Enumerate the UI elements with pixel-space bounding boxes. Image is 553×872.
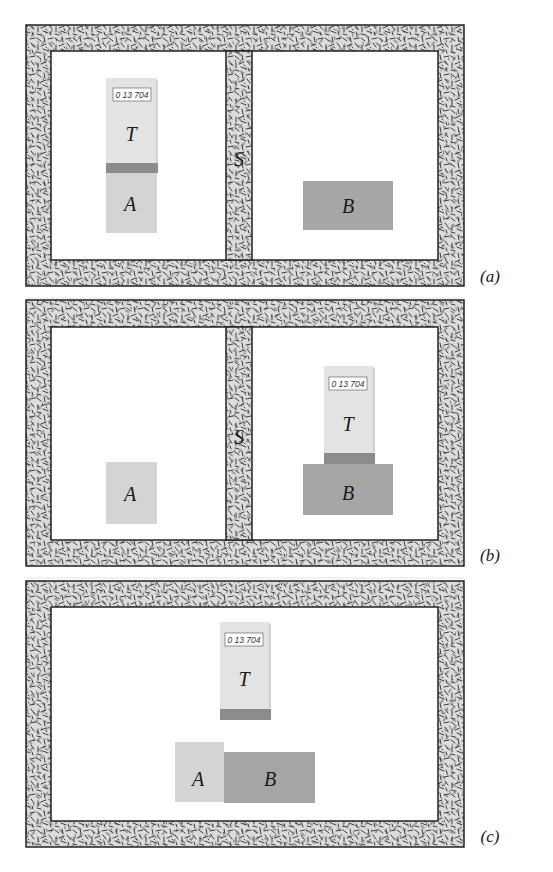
thermometer-sensor-band bbox=[324, 453, 375, 464]
body-b-label: B bbox=[342, 482, 354, 504]
wall-label: S bbox=[234, 426, 244, 448]
thermometer-t: 0 13 704 T bbox=[220, 622, 271, 720]
body-b-label: B bbox=[264, 768, 276, 790]
panel-a: S 0 13 704 T A B (a) bbox=[26, 25, 500, 286]
thermometer-reading: 0 13 704 bbox=[331, 379, 364, 389]
thermometer-sensor-band bbox=[106, 163, 158, 173]
thermometer-reading: 0 13 704 bbox=[227, 635, 260, 645]
body-a: A bbox=[175, 742, 224, 802]
panel-b: S A 0 13 704 T B (b) bbox=[26, 300, 500, 566]
body-a: A bbox=[106, 462, 157, 524]
thermometer-t: 0 13 704 T bbox=[324, 366, 375, 464]
body-a-label: A bbox=[190, 768, 205, 790]
thermometer-label: T bbox=[342, 413, 355, 435]
panel-caption: (a) bbox=[480, 267, 500, 286]
insulating-wall-s: S bbox=[226, 327, 252, 540]
body-a-label: A bbox=[122, 483, 137, 505]
body-b: B bbox=[303, 181, 393, 230]
panel-c: 0 13 704 T A B (c) bbox=[26, 581, 500, 847]
panel-caption: (c) bbox=[481, 827, 500, 846]
body-b: B bbox=[303, 464, 393, 515]
wall-label: S bbox=[234, 148, 244, 170]
body-a: A bbox=[106, 173, 157, 233]
panel-caption: (b) bbox=[480, 546, 500, 565]
insulating-wall-s: S bbox=[226, 51, 252, 260]
body-a-label: A bbox=[122, 193, 137, 215]
body-b-label: B bbox=[342, 195, 354, 217]
thermometer-label: T bbox=[125, 123, 138, 145]
thermometer-label: T bbox=[238, 668, 251, 690]
thermometer-t: 0 13 704 T bbox=[106, 78, 158, 173]
body-b: B bbox=[224, 752, 315, 803]
thermometer-reading: 0 13 704 bbox=[115, 90, 148, 100]
thermometer-sensor-band bbox=[220, 709, 271, 720]
thermal-equilibrium-diagram: S 0 13 704 T A B (a) S bbox=[0, 0, 553, 872]
